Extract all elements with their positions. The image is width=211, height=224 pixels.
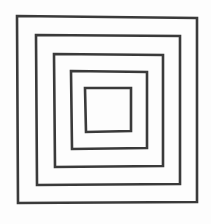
square-5-inner — [85, 88, 131, 132]
concentric-squares-drawing — [0, 0, 211, 224]
square-2 — [36, 35, 180, 185]
square-4 — [71, 71, 147, 149]
square-1-outer — [17, 16, 197, 203]
sketch-canvas: Hand-drawn sketch of five concentric squ… — [0, 0, 211, 224]
